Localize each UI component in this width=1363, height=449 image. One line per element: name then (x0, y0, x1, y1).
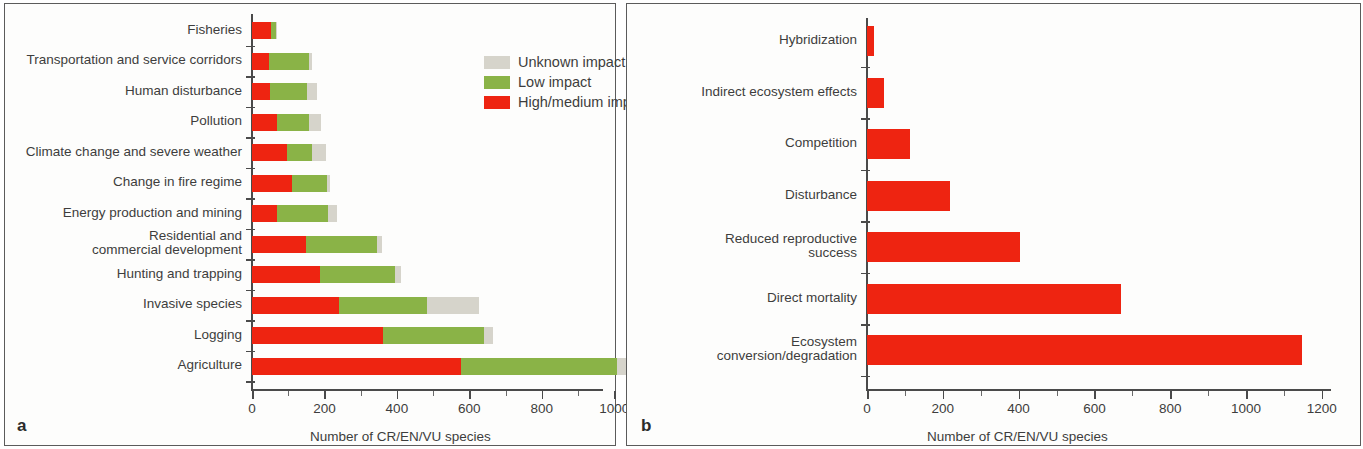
y-tick (246, 381, 255, 383)
panel-a: a 02004006008001000FisheriesTransportati… (4, 3, 616, 446)
x-tick (1322, 391, 1324, 399)
bar-segment (867, 232, 1020, 262)
x-minor-tick (361, 391, 362, 396)
category-label-line: Human disturbance (0, 84, 242, 98)
x-minor-tick (578, 391, 579, 396)
x-tick-label: 1000 (1216, 401, 1276, 416)
bar-segment (484, 327, 493, 344)
x-tick-label: 0 (837, 401, 897, 416)
x-tick-label: 0 (222, 401, 282, 416)
bar-segment (252, 83, 270, 100)
bar-segment (252, 358, 461, 375)
bar-segment (320, 266, 395, 283)
category-label-line: Disturbance (537, 188, 857, 202)
bar-segment (277, 205, 328, 222)
category-label-line: Logging (0, 328, 242, 342)
x-tick (252, 391, 254, 399)
category-label-line: Indirect ecosystem effects (537, 85, 857, 99)
bar-segment (277, 114, 309, 131)
y-tick (246, 320, 255, 322)
bar-segment (339, 297, 427, 314)
bar-segment (377, 236, 382, 253)
category-label-line: Fisheries (0, 23, 242, 37)
bar-segment (287, 144, 312, 161)
legend-swatch-low (484, 76, 510, 89)
x-minor-tick (905, 391, 906, 396)
x-tick-label: 800 (512, 401, 572, 416)
x-tick (542, 391, 544, 399)
bar (252, 53, 312, 70)
bar (252, 297, 479, 314)
bar-segment (252, 144, 287, 161)
category-label: Human disturbance (0, 84, 242, 98)
bar-segment (307, 83, 317, 100)
x-tick (943, 391, 945, 399)
bar-segment (312, 144, 326, 161)
x-tick-label: 600 (1064, 401, 1124, 416)
y-tick (246, 46, 255, 48)
x-tick-label: 200 (913, 401, 973, 416)
bar (252, 175, 330, 192)
x-minor-tick (1208, 391, 1209, 396)
bar-segment (309, 53, 312, 70)
category-label: Climate change and severe weather (0, 145, 242, 159)
category-label-line: Invasive species (0, 297, 242, 311)
x-tick (469, 391, 471, 399)
x-minor-tick (1284, 391, 1285, 396)
bar (867, 335, 1302, 365)
bar-segment (309, 114, 321, 131)
y-tick (861, 376, 870, 378)
category-label: Agriculture (0, 358, 242, 372)
x-axis (251, 389, 603, 391)
bar-segment (252, 297, 339, 314)
bar (867, 26, 874, 56)
bar-segment (427, 297, 479, 314)
y-tick (861, 273, 870, 275)
category-label: Direct mortality (537, 291, 857, 305)
x-tick (1094, 391, 1096, 399)
bar (867, 129, 910, 159)
bar-segment (306, 236, 377, 253)
x-tick (324, 391, 326, 399)
bar-segment (867, 335, 1302, 365)
category-label-line: Residential and (0, 229, 242, 243)
x-axis-title: Number of CR/EN/VU species (310, 429, 491, 444)
category-label: Fisheries (0, 23, 242, 37)
category-label: Change in fire regime (0, 175, 242, 189)
bar-segment (252, 205, 277, 222)
category-label-line: commercial development (0, 243, 242, 257)
category-label-line: Transportation and service corridors (0, 53, 242, 67)
x-tick-label: 600 (439, 401, 499, 416)
y-tick (861, 324, 870, 326)
bar (252, 144, 326, 161)
bar-segment (252, 236, 306, 253)
bar-segment (252, 266, 320, 283)
legend-label: Unknown impact (518, 54, 625, 70)
x-minor-tick (981, 391, 982, 396)
category-label: Hybridization (537, 33, 857, 47)
category-label: Disturbance (537, 188, 857, 202)
bar-segment (252, 22, 271, 39)
category-label-line: conversion/degradation (537, 349, 857, 363)
bar-segment (328, 205, 337, 222)
x-tick (1170, 391, 1172, 399)
category-label-line: success (537, 246, 857, 260)
bar-segment (867, 181, 950, 211)
bar (867, 181, 950, 211)
bar (252, 327, 493, 344)
category-label: Ecosystemconversion/degradation (537, 335, 857, 363)
y-tick (246, 107, 255, 109)
category-label: Pollution (0, 114, 242, 128)
category-label-line: Climate change and severe weather (0, 145, 242, 159)
category-label-line: Change in fire regime (0, 175, 242, 189)
category-label-line: Reduced reproductive (537, 232, 857, 246)
x-minor-tick (1057, 391, 1058, 396)
bar (252, 266, 401, 283)
bar (252, 205, 337, 222)
y-tick (246, 137, 255, 139)
bar-segment (327, 175, 330, 192)
category-label: Energy production and mining (0, 206, 242, 220)
panel-b-plot: 020040060080010001200HybridizationIndire… (627, 4, 1362, 447)
bar (252, 236, 382, 253)
bar-segment (252, 53, 269, 70)
